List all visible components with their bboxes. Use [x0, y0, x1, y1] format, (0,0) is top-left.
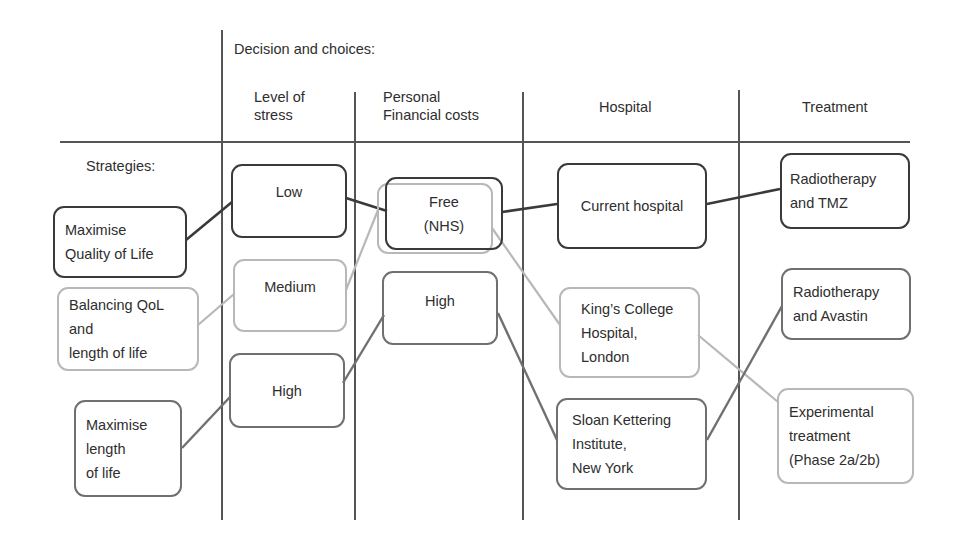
treatment-label: Radiotherapy and Avastin: [793, 280, 879, 328]
stress-label: Medium: [264, 275, 316, 299]
strategy-label: Maximise Quality of Life: [65, 218, 154, 266]
strategy-maximise-length-of-life: Maximise length of life: [74, 400, 182, 497]
column-header-stress: Level of stress: [254, 88, 305, 124]
cost-label: High: [425, 289, 455, 313]
column-header-costs: Personal Financial costs: [383, 88, 479, 124]
hospital-kings-college: King’s College Hospital, London: [559, 287, 700, 378]
treatment-experimental: Experimental treatment (Phase 2a/2b): [777, 388, 914, 484]
strategy-label: Balancing QoL and length of life: [69, 293, 164, 365]
column-header-treatment: Treatment: [802, 98, 868, 116]
stress-label: Low: [276, 180, 303, 204]
hospital-current: Current hospital: [557, 163, 707, 249]
treatment-radiotherapy-tmz: Radiotherapy and TMZ: [780, 153, 910, 229]
hospital-label: Current hospital: [581, 194, 683, 218]
stress-low: Low: [231, 164, 347, 238]
cost-label: Free (NHS): [424, 190, 464, 238]
strategy-label: Maximise length of life: [86, 413, 147, 485]
hospital-sloan-kettering: Sloan Kettering Institute, New York: [556, 398, 707, 490]
decision-diagram: Decision and choices: Level of stress Pe…: [0, 0, 973, 548]
treatment-label: Radiotherapy and TMZ: [790, 167, 876, 215]
cost-free-nhs: Free (NHS): [385, 177, 503, 250]
strategies-label: Strategies:: [86, 157, 155, 175]
strategy-balancing-qol-and-length: Balancing QoL and length of life: [57, 287, 199, 371]
strategy-maximise-quality-of-life: Maximise Quality of Life: [53, 206, 187, 278]
stress-medium: Medium: [233, 259, 347, 332]
treatment-label: Experimental treatment (Phase 2a/2b): [789, 400, 880, 472]
cost-high: High: [382, 271, 498, 345]
treatment-radiotherapy-avastin: Radiotherapy and Avastin: [781, 268, 911, 340]
stress-high: High: [229, 353, 345, 428]
diagram-title: Decision and choices:: [234, 40, 375, 58]
hospital-label: King’s College Hospital, London: [581, 297, 673, 369]
column-header-hospital: Hospital: [599, 98, 651, 116]
stress-label: High: [272, 379, 302, 403]
hospital-label: Sloan Kettering Institute, New York: [572, 408, 671, 480]
